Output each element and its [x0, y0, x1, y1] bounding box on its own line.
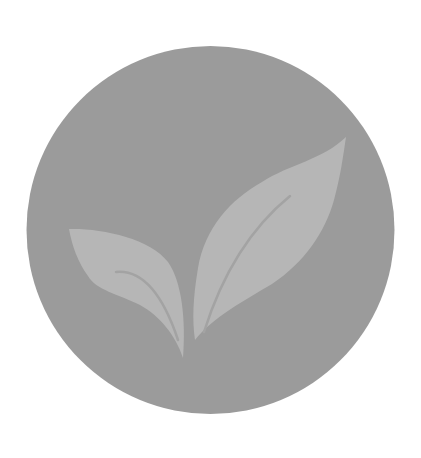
sprout-icon [0, 0, 421, 458]
logo-canvas [0, 0, 421, 458]
